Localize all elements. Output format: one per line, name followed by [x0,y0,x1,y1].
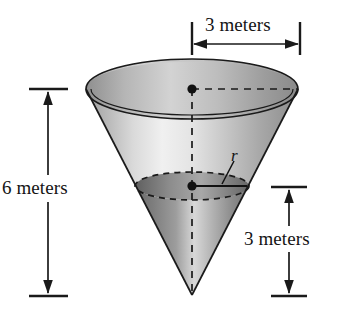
top-center-dot [187,84,196,93]
height-dim-arrowhead-up [43,91,53,105]
cone-illustration [0,0,344,321]
top-dim-arrowhead-right [285,39,299,49]
height-dim-arrowhead-down [43,280,53,294]
top-radius-dimension-label: 3 meters [205,14,271,36]
cone-diagram: 6 meters 3 meters 3 meters r [0,0,344,321]
depth-dim-arrowhead-up [284,189,294,203]
water-depth-dimension-label: 3 meters [244,228,310,250]
water-body [135,186,249,300]
height-dimension-label: 6 meters [2,177,68,199]
top-dim-arrowhead-left [193,39,207,49]
depth-dim-arrowhead-down [284,280,294,294]
water-radius-variable-label: r [231,146,238,166]
